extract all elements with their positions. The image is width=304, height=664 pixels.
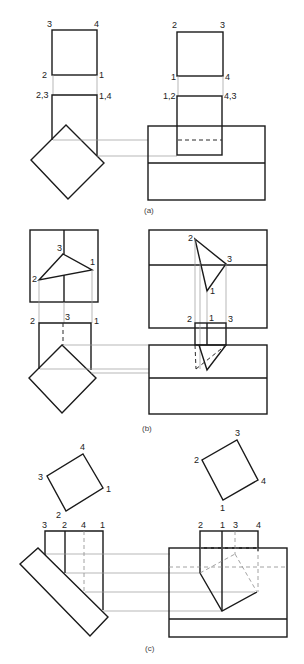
- vertex-label: 2: [194, 455, 199, 465]
- base-block: [169, 548, 287, 637]
- rotated-square: [47, 454, 103, 511]
- vertex-label: 4: [261, 476, 266, 486]
- vertex-label: 4: [81, 520, 86, 530]
- rotated-square: [202, 440, 258, 500]
- panel-c: 4 3 1 2 3 2 4 1 3 2 4 1: [20, 428, 287, 653]
- vertex-label: 4: [80, 442, 85, 452]
- vertex-label: 1: [220, 520, 225, 530]
- top-square: [177, 32, 223, 76]
- panel-b-left-view: 3 1 2 2 3 1: [29, 230, 149, 413]
- vertex-label: 1: [90, 257, 95, 267]
- vertex-label: 1: [100, 520, 105, 530]
- vertex-label: 4: [94, 19, 99, 29]
- diamond-section: [31, 125, 104, 199]
- vertex-label: 1: [210, 286, 215, 296]
- vertex-label: 3: [42, 520, 47, 530]
- panel-caption: (a): [144, 206, 154, 215]
- top-square: [52, 30, 97, 75]
- plan-rect: [149, 230, 267, 328]
- hidden-line: [195, 345, 196, 369]
- panel-caption: (b): [142, 424, 152, 433]
- vertex-label: 3: [235, 428, 240, 438]
- panel-caption: (c): [145, 644, 155, 653]
- vertex-label: 2: [198, 520, 203, 530]
- vertex-label: 4,3: [224, 91, 237, 101]
- panel-c-right-view: 3 2 4 1 2 1 3 4: [169, 428, 287, 637]
- vertex-label: 2: [187, 314, 192, 324]
- vertex-label: 2: [62, 520, 67, 530]
- triangle: [39, 254, 92, 280]
- vertex-label: 1: [220, 503, 225, 513]
- vertex-label: 2: [188, 233, 193, 243]
- vertex-label: 1: [171, 72, 176, 82]
- vertex-label: 1,4: [99, 91, 112, 101]
- vertex-label: 2: [42, 70, 47, 80]
- vertex-label: 1,2: [163, 91, 176, 101]
- vertex-label: 3: [228, 314, 233, 324]
- vertex-label: 3: [233, 520, 238, 530]
- lower-rect: [52, 95, 97, 156]
- vertex-label: 2: [30, 316, 35, 326]
- hidden-line: [235, 554, 257, 592]
- vertex-label: 3: [57, 243, 62, 253]
- section-edge: [199, 345, 226, 370]
- panel-b-right-view: 2 3 1 2 1 3: [149, 230, 267, 414]
- vertex-label: 1: [209, 313, 214, 323]
- vertex-label: 4: [225, 72, 230, 82]
- panel-a-right-view: 2 3 1 4 1,2 4,3: [148, 20, 265, 200]
- vertex-label: 3: [65, 312, 70, 322]
- panel-b: 3 1 2 2 3 1 2 3 1 2 1: [29, 230, 267, 433]
- lower-rect: [39, 323, 91, 370]
- vertex-label: 3: [38, 472, 43, 482]
- top-rect: [200, 531, 258, 548]
- base-block: [149, 345, 267, 414]
- panel-a-left-view: 3 4 2 1 2,3 1,4: [31, 19, 177, 199]
- vertex-label: 2: [56, 510, 61, 520]
- orthographic-projection-figure: 3 4 2 1 2,3 1,4 2 3 1 4 1,2 4,3 (a): [0, 0, 304, 664]
- vertex-label: 1: [94, 316, 99, 326]
- hidden-line: [200, 554, 235, 573]
- vertex-label: 3: [227, 254, 232, 264]
- vertex-label: 2: [32, 274, 37, 284]
- panel-a: 3 4 2 1 2,3 1,4 2 3 1 4 1,2 4,3 (a): [31, 19, 265, 215]
- vertex-label: 2: [172, 20, 177, 30]
- vertex-label: 3: [47, 19, 52, 29]
- vertex-label: 1: [106, 484, 111, 494]
- vertex-label: 2,3: [36, 90, 49, 100]
- vertex-label: 4: [256, 520, 261, 530]
- vertex-label: 1: [99, 70, 104, 80]
- vertex-label: 3: [220, 20, 225, 30]
